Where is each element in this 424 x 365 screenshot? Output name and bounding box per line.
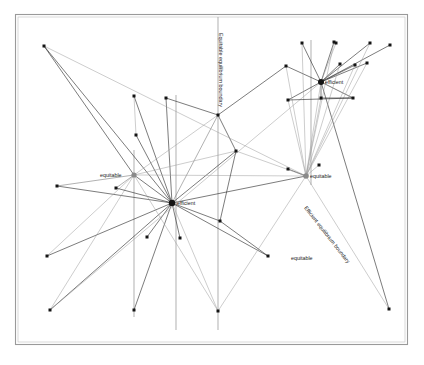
edge-7 (50, 175, 134, 310)
edge-57 (218, 115, 236, 151)
edge-42 (288, 100, 306, 176)
edge-45 (306, 42, 334, 176)
hub-node-equitable-left (131, 172, 136, 177)
leaf-node-15 (285, 65, 288, 68)
label-hub-efficient-right: efficient (325, 79, 344, 85)
leaf-node-22 (339, 63, 342, 66)
edge-16 (172, 203, 218, 311)
diagram-frame (16, 15, 408, 345)
edge-58 (166, 98, 218, 115)
edge-25 (134, 175, 306, 176)
edge-21 (134, 175, 172, 203)
leaf-node-29 (146, 236, 149, 239)
leaf-node-10 (217, 114, 220, 117)
edge-18 (172, 151, 236, 203)
edge-19 (172, 203, 268, 256)
hub-node-efficient-right (318, 79, 324, 85)
edge-62 (134, 96, 136, 135)
leaf-node-19 (320, 97, 323, 100)
label-equitable-equilibrium-boundary: Equitable equilibrium boundary (218, 33, 224, 107)
edge-0 (44, 46, 172, 203)
edge-55 (220, 221, 268, 256)
edge-5 (47, 175, 134, 256)
edge-1 (44, 46, 134, 175)
edge-59 (218, 66, 286, 115)
frame-group (16, 15, 408, 345)
label-label-equitable-bottom: equitable (291, 255, 313, 261)
diagram-frame-inner (18, 17, 405, 342)
leaf-node-13 (235, 150, 238, 153)
leaf-node-8 (135, 134, 138, 137)
edge-49 (306, 43, 370, 176)
edge-56 (220, 151, 236, 221)
network-diagram: efficientequitableefficientequitableequi… (0, 0, 424, 365)
leaf-node-28 (388, 308, 391, 311)
edge-23 (134, 151, 236, 175)
leaf-node-30 (287, 168, 290, 171)
edge-9 (134, 96, 172, 203)
leaf-node-14 (267, 255, 270, 258)
leaf-node-17 (301, 42, 304, 45)
label-hub-equitable-left: equitable (100, 172, 122, 178)
leaf-node-27 (389, 44, 392, 47)
edge-52 (218, 176, 306, 311)
leaf-node-1 (56, 185, 59, 188)
hub-node-equitable-right (303, 173, 309, 179)
leaf-node-16 (287, 99, 290, 102)
edge-8 (116, 188, 172, 203)
leaf-node-23 (352, 97, 355, 100)
edge-4 (47, 203, 172, 256)
edge-27 (288, 82, 321, 100)
edge-2 (57, 175, 134, 186)
edge-6 (50, 203, 172, 310)
leaf-node-6 (133, 309, 136, 312)
edge-63 (44, 46, 306, 176)
edge-20 (172, 176, 306, 203)
edge-11 (136, 135, 172, 203)
leaf-node-11 (217, 310, 220, 313)
leaf-node-21 (335, 42, 338, 45)
label-hub-efficient-left: efficient (177, 200, 196, 206)
leaf-node-5 (133, 95, 136, 98)
edge-28 (302, 43, 321, 82)
leaf-node-12 (219, 220, 222, 223)
leaf-node-25 (366, 62, 369, 65)
boundary-labels: Equitable equilibrium boundaryEfficient … (218, 33, 352, 265)
leaf-node-4 (115, 187, 118, 190)
leaf-node-7 (165, 97, 168, 100)
hub-node-efficient-left (169, 200, 175, 206)
edge-10 (134, 203, 172, 310)
leaf-node-18 (318, 164, 321, 167)
leaf-node-0 (43, 45, 46, 48)
edge-26 (286, 66, 321, 82)
edge-54 (236, 151, 306, 176)
leaf-node-24 (354, 64, 357, 67)
edge-39 (321, 82, 389, 309)
edge-15 (172, 115, 218, 203)
diagram-canvas: efficientequitableefficientequitableequi… (0, 0, 424, 365)
leaf-node-26 (369, 42, 372, 45)
leaf-node-3 (49, 309, 52, 312)
edge-53 (306, 176, 389, 309)
edge-12 (166, 98, 172, 203)
leaf-node-9 (179, 237, 182, 240)
label-hub-equitable-right: equitable (310, 173, 332, 179)
leaf-node-2 (46, 255, 49, 258)
